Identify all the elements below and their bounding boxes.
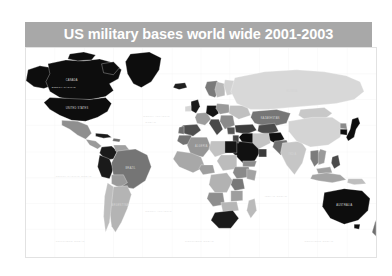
world-map-panel: NORTH PACIFIC CANADA UNITED STATES NORTH… xyxy=(25,47,377,258)
region-sweden xyxy=(215,82,225,98)
svg-text:SOUTHERN OCEAN: SOUTHERN OCEAN xyxy=(185,240,214,243)
svg-text:CHINA: CHINA xyxy=(310,130,319,134)
figure-root: US military bases world wide 2001-2003 xyxy=(0,0,392,276)
svg-text:ARGENTINA: ARGENTINA xyxy=(112,203,129,207)
region-egypt xyxy=(225,141,237,153)
svg-text:BRAZIL: BRAZIL xyxy=(125,166,136,170)
svg-text:AUSTRALIA: AUSTRALIA xyxy=(336,203,352,207)
svg-text:OCEAN: OCEAN xyxy=(145,121,156,124)
chart-title-bar: US military bases world wide 2001-2003 xyxy=(25,22,372,47)
region-portugal xyxy=(178,126,184,134)
region-yemen xyxy=(243,161,257,167)
region-tanzania xyxy=(231,191,243,202)
svg-text:NORTH ATLANTIC: NORTH ATLANTIC xyxy=(143,115,170,118)
svg-text:SOUTHERN OCEAN: SOUTHERN OCEAN xyxy=(56,240,85,243)
svg-text:INDIAN OCEAN: INDIAN OCEAN xyxy=(265,195,288,198)
page-title: US military bases world wide 2001-2003 xyxy=(64,27,333,42)
svg-text:NORTH PACIFIC: NORTH PACIFIC xyxy=(52,86,76,89)
region-south-korea xyxy=(340,129,347,135)
region-north-korea xyxy=(340,123,347,129)
region-ireland xyxy=(185,105,191,111)
svg-text:UNITED STATES: UNITED STATES xyxy=(66,106,89,110)
svg-text:CANADA: CANADA xyxy=(66,78,78,82)
svg-text:SOUTH ATLANTIC: SOUTH ATLANTIC xyxy=(145,210,172,213)
region-greece xyxy=(227,127,235,134)
svg-text:RUSSIA: RUSSIA xyxy=(287,89,298,93)
svg-text:INDIA: INDIA xyxy=(289,152,297,156)
region-tasmania xyxy=(354,224,360,229)
svg-text:SOUTHERN OCEAN: SOUTHERN OCEAN xyxy=(304,240,333,243)
svg-text:KAZAKHSTAN: KAZAKHSTAN xyxy=(261,116,280,120)
world-choropleth-map: NORTH PACIFIC CANADA UNITED STATES NORTH… xyxy=(26,48,376,257)
region-oman xyxy=(259,149,267,157)
region-somalia xyxy=(247,169,257,181)
svg-text:ALGERIA: ALGERIA xyxy=(195,144,208,148)
svg-text:SOUTH PACIFIC OCEAN: SOUTH PACIFIC OCEAN xyxy=(56,175,92,178)
